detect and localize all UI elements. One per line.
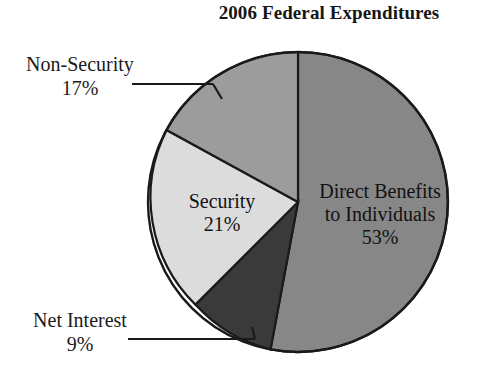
pie-chart-figure: 2006 Federal Expenditures Non-Security 1… <box>0 0 479 367</box>
slice-label-direct-benefits-line2: to Individuals <box>310 203 450 226</box>
slice-label-security: Security 21% <box>172 190 272 236</box>
slice-label-non-security-name: Non-Security <box>4 52 156 76</box>
slice-label-security-name: Security <box>172 190 272 213</box>
slice-label-non-security: Non-Security 17% <box>4 52 156 100</box>
slice-label-direct-benefits-percent: 53% <box>310 226 450 249</box>
slice-label-net-interest-percent: 9% <box>4 332 156 356</box>
slice-label-direct-benefits-line1: Direct Benefits <box>310 180 450 203</box>
slice-label-net-interest-name: Net Interest <box>4 308 156 332</box>
slice-label-direct-benefits: Direct Benefits to Individuals 53% <box>310 180 450 249</box>
slice-label-non-security-percent: 17% <box>4 76 156 100</box>
slice-label-net-interest: Net Interest 9% <box>4 308 156 356</box>
slice-label-security-percent: 21% <box>172 213 272 236</box>
